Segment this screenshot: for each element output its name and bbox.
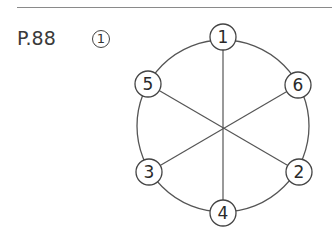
circular-graph-diagram: 162435 xyxy=(0,0,332,239)
node-3: 3 xyxy=(136,159,162,185)
node-5: 5 xyxy=(135,71,161,97)
node-6: 6 xyxy=(285,72,311,98)
node-label: 1 xyxy=(218,27,229,47)
node-4: 4 xyxy=(210,200,236,226)
node-label: 4 xyxy=(218,203,229,223)
node-label: 2 xyxy=(294,162,305,182)
node-label: 6 xyxy=(293,75,304,95)
spokes xyxy=(148,37,299,213)
node-2: 2 xyxy=(286,159,312,185)
node-label: 3 xyxy=(144,162,155,182)
node-1: 1 xyxy=(210,24,236,50)
node-label: 5 xyxy=(143,74,154,94)
